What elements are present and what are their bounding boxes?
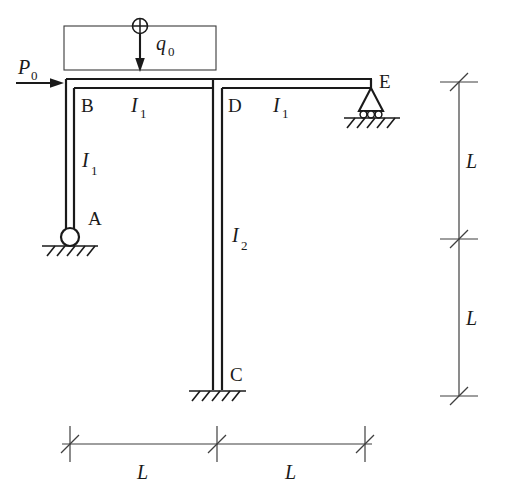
- support-a-pin-icon: [42, 228, 98, 256]
- point-load-subscript: 0: [31, 68, 38, 83]
- joint-c-label: C: [230, 364, 243, 385]
- dim-h-right-label: L: [284, 461, 296, 483]
- frame-diagram-svg: q 0 P 0: [0, 0, 505, 496]
- dim-v-bottom-label: L: [465, 307, 477, 329]
- support-c-fixed-icon: [189, 391, 246, 401]
- vertical-dimension-line: [440, 73, 478, 405]
- distributed-load-arrow-icon: [135, 34, 145, 73]
- member-ab-label: I: [81, 149, 90, 171]
- dim-v-top-label: L: [465, 150, 477, 172]
- frame-diagram-figure: q 0 P 0: [0, 0, 505, 496]
- member-de-label: I: [272, 94, 281, 116]
- dim-h-left-label: L: [136, 461, 148, 483]
- joint-b-label: B: [81, 95, 94, 116]
- member-ab-subscript: 1: [91, 163, 98, 178]
- member-bd-subscript: 1: [140, 106, 147, 121]
- member-dc-subscript: 2: [241, 238, 248, 253]
- joint-e-label: E: [379, 71, 391, 92]
- joint-d-label: D: [228, 95, 242, 116]
- horizontal-dimension-line: [61, 426, 374, 462]
- circled-plus-icon: [133, 19, 148, 34]
- point-load-arrow-icon: [16, 78, 64, 88]
- joint-a-label: A: [88, 208, 102, 229]
- point-load-label: P: [17, 56, 30, 78]
- member-de-subscript: 1: [282, 106, 289, 121]
- distributed-load-subscript: 0: [168, 44, 175, 59]
- distributed-load-label: q: [156, 32, 166, 55]
- support-e-roller-icon: [344, 88, 400, 128]
- member-dc-label: I: [231, 224, 240, 246]
- member-bd-label: I: [130, 94, 139, 116]
